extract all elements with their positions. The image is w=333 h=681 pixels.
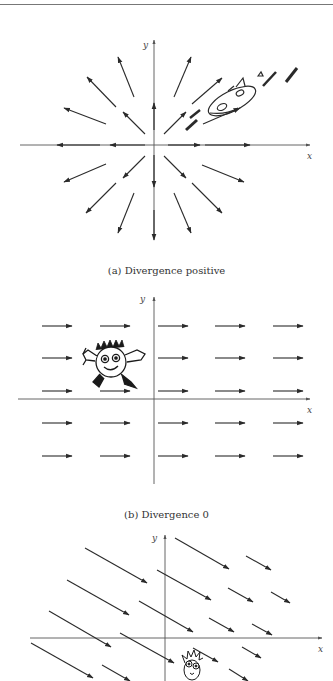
- coordinate-axes: [30, 535, 322, 681]
- vector-arrow: [86, 183, 116, 213]
- vector-arrow: [64, 108, 106, 124]
- vector-arrows: [42, 326, 303, 456]
- vector-arrow: [87, 77, 116, 107]
- vector-field-figure: y x y x y x: [0, 0, 333, 681]
- vector-arrow: [123, 112, 145, 134]
- vector-arrow: [202, 165, 244, 182]
- vector-arrow: [49, 611, 111, 647]
- vector-arrow: [120, 633, 174, 663]
- vector-arrow: [139, 601, 193, 632]
- y-axis-label: y: [139, 294, 146, 304]
- vector-arrow: [242, 647, 261, 658]
- vector-arrow: [209, 618, 234, 632]
- vector-arrow: [228, 588, 253, 602]
- vector-arrow: [31, 643, 93, 678]
- x-axis-label: x: [307, 151, 312, 161]
- panel-divergence-positive: [20, 40, 310, 240]
- vector-arrows: [57, 57, 250, 240]
- vector-arrow: [193, 648, 218, 662]
- vector-arrow: [64, 164, 106, 182]
- caption-panel-b: (b) Divergence 0: [0, 509, 333, 520]
- vector-arrow: [102, 665, 130, 681]
- vector-arrow: [67, 580, 129, 615]
- cartoon-bug-icon: [186, 68, 297, 130]
- vector-arrow: [85, 548, 147, 583]
- vector-arrow: [229, 669, 248, 681]
- x-axis-label: x: [318, 644, 323, 654]
- vector-arrow: [192, 183, 222, 213]
- vector-arrows: [31, 538, 290, 681]
- caption-panel-a: (a) Divergence positive: [0, 265, 333, 276]
- vector-arrow: [192, 78, 222, 104]
- frazzled-face-character-icon: [182, 650, 203, 680]
- vector-arrow: [246, 556, 271, 570]
- panel-divergence-zero: [18, 297, 310, 484]
- vector-arrow: [271, 592, 290, 603]
- vector-arrow: [123, 156, 145, 178]
- vector-arrow: [252, 624, 272, 635]
- y-axis-label: y: [142, 40, 149, 50]
- x-axis-label: x: [307, 405, 312, 415]
- vector-arrow: [164, 156, 186, 178]
- vector-arrow: [118, 57, 134, 97]
- vector-arrow: [174, 57, 191, 97]
- coordinate-axes: [20, 40, 310, 235]
- smiling-ball-character-icon: [83, 340, 145, 388]
- panel-divergence-negative: [30, 535, 322, 681]
- vector-arrow: [174, 193, 191, 233]
- vector-arrow: [118, 193, 134, 233]
- vector-arrow: [175, 538, 229, 569]
- y-axis-label: y: [151, 533, 158, 543]
- vector-arrow: [164, 112, 186, 134]
